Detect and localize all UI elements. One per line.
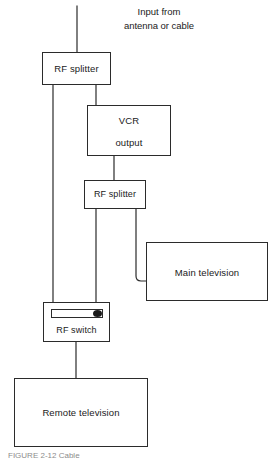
node-rf-splitter-2-label: RF splitter: [85, 189, 145, 199]
node-vcr-output-label: output: [88, 137, 170, 148]
node-rf-splitter-1-label: RF splitter: [43, 63, 110, 74]
node-remote-television-label: Remote television: [15, 407, 147, 418]
input-source-line-1: Input from: [84, 5, 234, 19]
node-rf-switch: RF switch: [43, 302, 110, 342]
node-vcr: VCR output: [87, 105, 171, 156]
node-rf-splitter-1: RF splitter: [42, 52, 111, 85]
input-source-line-2: antenna or cable: [84, 19, 234, 33]
rf-switch-slider-track: [51, 309, 103, 318]
node-rf-switch-label: RF switch: [44, 325, 109, 335]
node-main-television: Main television: [146, 242, 268, 301]
figure-diagram: Input from antenna or cable RF splitter …: [0, 0, 275, 461]
node-remote-television: Remote television: [14, 378, 148, 447]
figure-caption: FIGURE 2-12 Cable: [8, 451, 270, 461]
input-source-annotation: Input from antenna or cable: [84, 5, 234, 32]
wire-splitter2-to-main-tv: [136, 209, 146, 281]
node-main-television-label: Main television: [147, 267, 267, 278]
rf-switch-slider-knob: [93, 310, 102, 317]
node-rf-splitter-2: RF splitter: [84, 180, 146, 209]
node-vcr-label: VCR: [88, 115, 170, 126]
